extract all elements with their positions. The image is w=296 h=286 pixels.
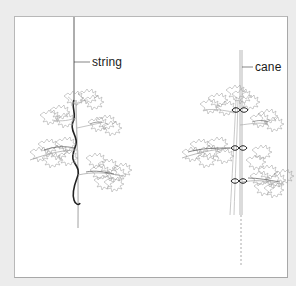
tomato-support-diagram [0,0,296,286]
string-plant [30,17,132,228]
cane-ties [231,108,248,184]
cane-plant [182,50,294,266]
tie-3 [231,179,247,184]
foliage [30,89,132,192]
cane-label: cane [255,61,281,73]
string-label: string [92,56,122,68]
